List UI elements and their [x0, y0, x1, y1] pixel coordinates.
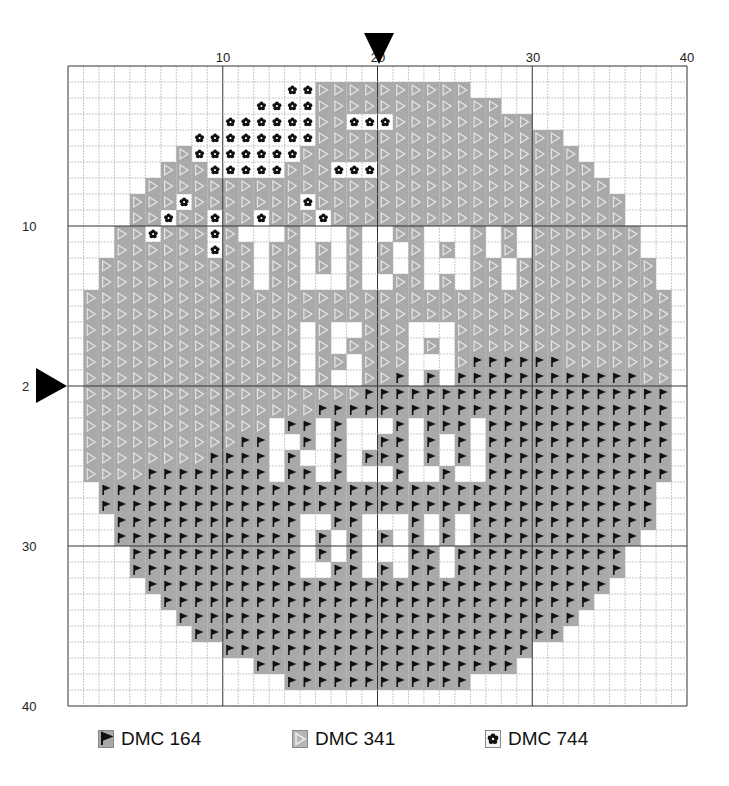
legend-label: DMC 164: [121, 728, 201, 750]
legend-item-dmc-744: DMC 744: [485, 728, 588, 750]
legend-item-dmc-164: DMC 164: [98, 728, 201, 750]
legend-label: DMC 341: [315, 728, 395, 750]
flag-icon: [98, 730, 114, 748]
cross-stitch-chart: 10 20 30 40 10 2 30 40: [0, 0, 729, 786]
flower-icon: [485, 730, 501, 748]
stitch-grid: [0, 0, 729, 786]
legend-label: DMC 744: [508, 728, 588, 750]
legend-item-dmc-341: DMC 341: [292, 728, 395, 750]
triangle-icon: [292, 730, 308, 748]
